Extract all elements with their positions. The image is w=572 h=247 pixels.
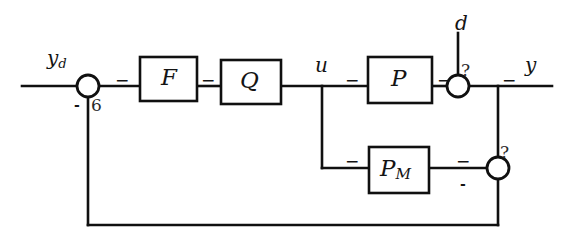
sign-wire-mark-before-PM: − <box>345 153 359 170</box>
sign-wire-mark-before-Q: − <box>201 72 215 89</box>
signal-label-reference-subscript: d <box>58 56 66 71</box>
sign-sum-model-mark-top: ? <box>500 144 509 161</box>
signal-label-output-y: y <box>525 55 536 75</box>
summing-junction-input <box>77 75 99 97</box>
sign-wire-mark-output: − <box>502 72 516 89</box>
sign-sum-input-minus-left: - <box>74 98 80 112</box>
wire-group <box>22 33 552 225</box>
sign-wire-mark-before-P: − <box>345 72 359 89</box>
sign-wire-mark-after-P: − <box>437 72 451 89</box>
block-label-PM: PM <box>380 157 411 183</box>
diagram-canvas <box>0 0 572 247</box>
block-diagram: F Q P PM yd u d y - 6 − − − − ? − − − - … <box>0 0 572 247</box>
block-label-PM-base: P <box>380 155 395 181</box>
signal-label-reference: yd <box>47 48 67 70</box>
sign-wire-mark-after-PM: − <box>456 153 470 170</box>
block-label-F: F <box>161 66 177 89</box>
block-label-P: P <box>391 67 406 90</box>
signal-label-disturbance-d: d <box>455 13 468 33</box>
sign-sum-disturbance-mark: ? <box>461 62 470 79</box>
sign-sum-model-minus-left: - <box>460 177 466 191</box>
sign-sum-input-mark-right: 6 <box>91 97 102 114</box>
block-label-PM-subscript: M <box>395 165 411 183</box>
signal-label-reference-base: y <box>47 46 58 70</box>
block-label-Q: Q <box>240 69 259 92</box>
sign-wire-mark-before-F: − <box>115 72 129 89</box>
signal-label-control-u: u <box>315 55 328 75</box>
